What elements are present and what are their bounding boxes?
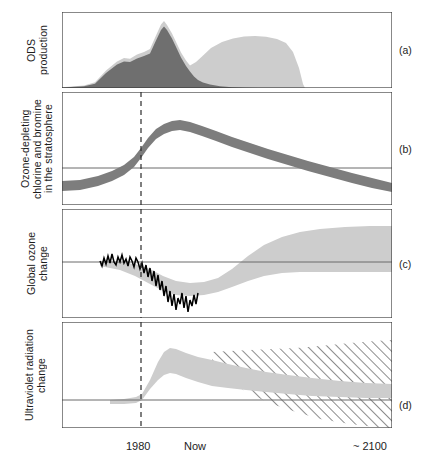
ozone-four-panel-figure: ODSproduction Ozone-depletingchlorine an… [0,0,429,467]
figure-plot-area [0,0,429,467]
series-stratospheric-halogen-band [62,120,392,192]
series-global-ozone-projection-band [100,226,392,296]
panel-c-content [62,209,392,318]
panel-b-content [62,92,392,205]
panel-a-content [62,12,392,88]
panel-d-content [62,322,392,428]
